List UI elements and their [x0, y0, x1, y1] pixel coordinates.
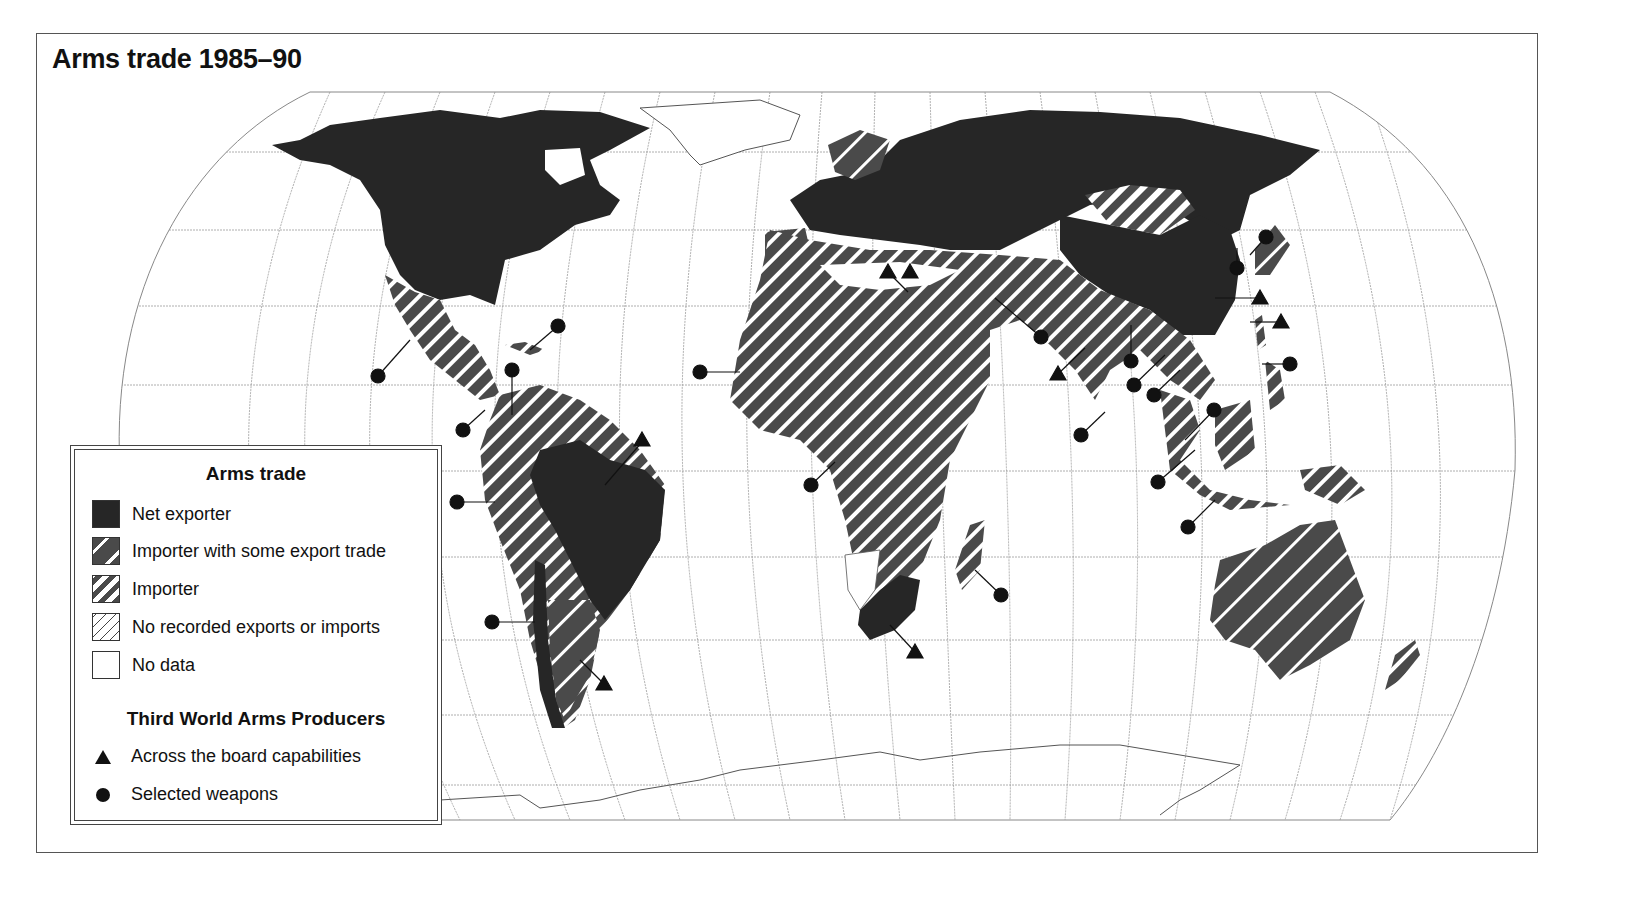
- importer-some-export-swatch-icon: [92, 537, 120, 565]
- circle-icon: [456, 423, 470, 437]
- circle-icon: [551, 319, 565, 333]
- circle-icon: [1207, 403, 1221, 417]
- circle-icon: [95, 787, 111, 803]
- triangle-icon: [95, 750, 111, 764]
- map-title: Arms trade 1985–90: [52, 44, 302, 75]
- legend-label: Importer: [132, 579, 199, 600]
- legend-label: No recorded exports or imports: [132, 617, 380, 638]
- circle-icon: [994, 588, 1008, 602]
- circle-icon: [450, 495, 464, 509]
- legend-title: Arms trade: [71, 463, 441, 485]
- circle-icon: [485, 615, 499, 629]
- legend-item-net-exporter: Net exporter: [92, 500, 231, 528]
- legend-item-importer: Importer: [92, 575, 199, 603]
- circle-icon: [1230, 261, 1244, 275]
- no-data-swatch-icon: [92, 651, 120, 679]
- legend-box: Arms trade Net exporter Importer with so…: [70, 445, 442, 825]
- circle-icon: [1074, 428, 1088, 442]
- legend-item-importer-some-export: Importer with some export trade: [92, 537, 386, 565]
- circle-icon: [505, 363, 519, 377]
- circle-icon: [1283, 357, 1297, 371]
- circle-icon: [1124, 354, 1138, 368]
- legend-item-selected-weapons: Selected weapons: [95, 784, 278, 805]
- circle-icon: [1147, 388, 1161, 402]
- circle-icon: [804, 478, 818, 492]
- legend-item-across-board: Across the board capabilities: [95, 746, 361, 767]
- legend-label: Importer with some export trade: [132, 541, 386, 562]
- legend-item-no-recorded: No recorded exports or imports: [92, 613, 380, 641]
- legend-item-no-data: No data: [92, 651, 195, 679]
- circle-icon: [1181, 520, 1195, 534]
- circle-icon: [693, 365, 707, 379]
- circle-icon: [1151, 475, 1165, 489]
- importer-swatch-icon: [92, 575, 120, 603]
- circle-icon: [1259, 230, 1273, 244]
- net-exporter-swatch-icon: [92, 500, 120, 528]
- legend-label: Across the board capabilities: [131, 746, 361, 767]
- circle-icon: [1127, 378, 1141, 392]
- circle-icon: [1034, 330, 1048, 344]
- legend-label: Selected weapons: [131, 784, 278, 805]
- circle-icon: [371, 369, 385, 383]
- no-recorded-swatch-icon: [92, 613, 120, 641]
- producers-title: Third World Arms Producers: [71, 708, 441, 730]
- legend-label: No data: [132, 655, 195, 676]
- legend-label: Net exporter: [132, 504, 231, 525]
